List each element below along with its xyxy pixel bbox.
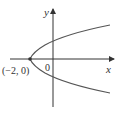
vertex-label: (−2, 0) bbox=[2, 65, 29, 77]
x-axis-label: x bbox=[105, 63, 111, 75]
origin-label: 0 bbox=[45, 62, 50, 73]
y-axis-label: y bbox=[43, 6, 49, 18]
vertex-point bbox=[28, 57, 32, 61]
parabola-diagram: y x 0 (−2, 0) bbox=[0, 0, 121, 118]
